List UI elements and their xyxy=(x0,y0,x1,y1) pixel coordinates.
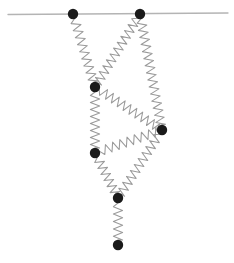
spring-upper-left-to-lower-left xyxy=(90,87,99,153)
anchor-left[interactable] xyxy=(68,9,78,19)
spring-lower-to-free-end xyxy=(113,198,122,245)
joint-lower-left[interactable] xyxy=(90,148,100,158)
figure-canvas xyxy=(0,0,234,263)
joint-right[interactable] xyxy=(157,125,167,135)
mass-spring-diagram xyxy=(0,0,234,263)
spring-lower-left-to-lower xyxy=(95,153,120,198)
joint-upper-left[interactable] xyxy=(90,82,100,92)
anchor-right[interactable] xyxy=(135,9,145,19)
joint-lower[interactable] xyxy=(113,193,123,203)
springs-layer xyxy=(71,14,165,245)
spring-anchor-right-to-upper-left xyxy=(95,14,140,87)
spring-right-to-lower xyxy=(118,130,162,198)
free-end-mass[interactable] xyxy=(113,240,123,250)
ceiling-support-line xyxy=(8,13,228,15)
ceiling-layer xyxy=(8,13,228,15)
spring-anchor-left-to-upper-left xyxy=(71,14,98,87)
